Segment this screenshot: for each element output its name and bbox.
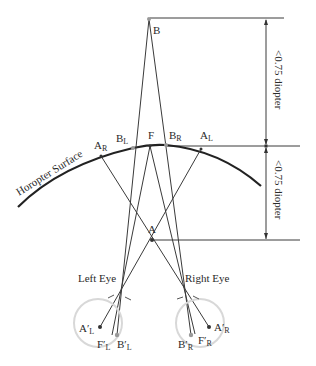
label-BR: BR — [169, 129, 182, 143]
point-ApL — [98, 325, 102, 329]
horopter-diagram: <0.75 diopter <0.75 diopter Horopter Sur… — [0, 0, 316, 366]
label-ApR: A′R — [214, 321, 230, 335]
upper-arrowhead-bottom-icon — [264, 139, 268, 145]
point-F — [149, 145, 152, 148]
point-BpR — [189, 333, 193, 337]
left-lens-mark-left — [108, 295, 114, 298]
label-A: A — [148, 223, 156, 235]
lower-arrowhead-top-icon — [264, 147, 268, 153]
label-BpR: B′R — [178, 338, 194, 352]
label-FpL: F′L — [97, 338, 111, 352]
label-F: F — [148, 129, 154, 141]
horopter-label: Horopter Surface — [14, 147, 85, 198]
right-eye-label: Right Eye — [185, 272, 229, 284]
label-B: B — [153, 24, 160, 36]
lower-arrowhead-bottom-icon — [264, 233, 268, 239]
label-AL: AL — [200, 129, 213, 143]
point-BR — [164, 143, 168, 147]
point-AL — [200, 148, 203, 151]
point-AR — [100, 155, 103, 158]
point-ApR — [207, 325, 211, 329]
left-lens-mark-right — [125, 297, 131, 300]
upper-dimension-label: <0.75 diopter — [273, 50, 285, 110]
dimension-tick — [265, 145, 268, 148]
left-eye-label: Left Eye — [78, 272, 116, 284]
point-BpL — [115, 333, 119, 337]
label-BpL: B′L — [117, 338, 132, 352]
label-FpR: F′R — [198, 334, 213, 348]
right-lens-mark-left — [177, 297, 183, 299]
point-A — [150, 238, 154, 242]
label-BL: BL — [116, 132, 128, 146]
point-B — [147, 17, 151, 21]
label-ApL: A′L — [79, 322, 94, 336]
upper-arrowhead-top-icon — [264, 19, 268, 25]
point-BL — [131, 146, 135, 150]
lower-dimension-label: <0.75 diopter — [273, 160, 285, 220]
label-AR: AR — [94, 139, 108, 153]
rays-B — [117, 19, 191, 335]
